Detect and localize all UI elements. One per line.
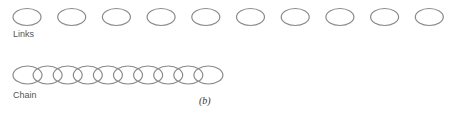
- link-ellipse: [326, 9, 354, 26]
- chain-link-ellipse: [194, 66, 223, 84]
- link-ellipse: [371, 9, 399, 26]
- link-ellipse: [281, 9, 309, 26]
- link-ellipse: [13, 9, 41, 26]
- figure-caption: (b): [199, 95, 211, 106]
- link-ellipse: [147, 9, 175, 26]
- links-diagram: [0, 0, 454, 117]
- link-ellipse: [237, 9, 265, 26]
- link-ellipse: [102, 9, 130, 26]
- link-ellipse: [192, 9, 220, 26]
- link-ellipse: [415, 9, 443, 26]
- chain-label: Chain: [13, 90, 37, 100]
- link-ellipse: [58, 9, 86, 26]
- links-label: Links: [13, 29, 34, 39]
